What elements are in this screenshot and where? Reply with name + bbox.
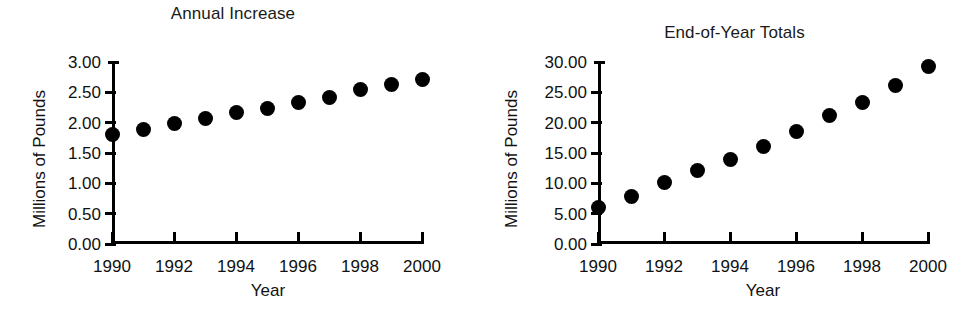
panel-annual-increase: Annual Increase Millions of Pounds Year … bbox=[0, 0, 470, 316]
y-tick-label-right: 5.00 bbox=[554, 205, 587, 222]
x-tick-label-left: 2000 bbox=[403, 258, 441, 275]
y-tick-right bbox=[591, 121, 602, 124]
figure-two-panel-scatter: Annual Increase Millions of Pounds Year … bbox=[0, 0, 979, 316]
y-tick-left bbox=[105, 212, 116, 215]
y-tick-label-left: 0.50 bbox=[68, 205, 101, 222]
data-point bbox=[384, 77, 399, 92]
x-tick-right bbox=[795, 232, 798, 244]
y-tick-left bbox=[108, 61, 119, 64]
plot-area-left: 0.000.501.001.502.002.503.00199019921994… bbox=[112, 62, 422, 244]
data-point bbox=[136, 122, 151, 137]
y-axis-label-left: Millions of Pounds bbox=[30, 90, 50, 228]
x-tick-label-right: 2000 bbox=[909, 258, 947, 275]
y-tick-label-left: 0.00 bbox=[68, 236, 101, 253]
data-point bbox=[855, 95, 870, 110]
data-point bbox=[723, 152, 738, 167]
data-point bbox=[657, 175, 672, 190]
data-point bbox=[198, 111, 213, 126]
y-axis-label-right: Millions of Pounds bbox=[502, 90, 522, 228]
x-tick-right bbox=[663, 232, 666, 244]
y-tick-label-left: 1.00 bbox=[68, 175, 101, 192]
x-axis-label-right: Year bbox=[746, 281, 780, 301]
data-point bbox=[690, 163, 705, 178]
x-tick-left bbox=[359, 232, 362, 244]
y-tick-label-left: 2.50 bbox=[68, 84, 101, 101]
x-axis-label-left: Year bbox=[251, 281, 285, 301]
x-tick-right bbox=[597, 232, 600, 244]
x-tick-label-right: 1998 bbox=[843, 258, 881, 275]
y-tick-right bbox=[591, 91, 602, 94]
data-point bbox=[415, 72, 430, 87]
x-tick-left bbox=[235, 232, 238, 244]
data-point bbox=[353, 82, 368, 97]
x-tick-right bbox=[861, 232, 864, 244]
data-point bbox=[624, 189, 639, 204]
data-point bbox=[822, 108, 837, 123]
y-tick-left bbox=[105, 91, 116, 94]
x-tick-right bbox=[729, 232, 732, 244]
data-point bbox=[167, 116, 182, 131]
x-tick-label-right: 1992 bbox=[645, 258, 683, 275]
data-point bbox=[591, 200, 606, 215]
y-tick-left bbox=[105, 182, 116, 185]
data-point bbox=[229, 105, 244, 120]
x-axis-line-right bbox=[598, 241, 928, 244]
y-tick-label-right: 15.00 bbox=[544, 145, 587, 162]
x-tick-left bbox=[421, 232, 424, 244]
data-point bbox=[756, 139, 771, 154]
x-tick-label-left: 1992 bbox=[155, 258, 193, 275]
x-tick-label-right: 1994 bbox=[711, 258, 749, 275]
y-tick-label-right: 10.00 bbox=[544, 175, 587, 192]
x-tick-label-right: 1996 bbox=[777, 258, 815, 275]
y-tick-label-right: 25.00 bbox=[544, 84, 587, 101]
x-tick-label-right: 1990 bbox=[579, 258, 617, 275]
y-tick-left bbox=[105, 152, 116, 155]
data-point bbox=[291, 95, 306, 110]
x-axis-line-left bbox=[112, 241, 422, 244]
x-tick-left bbox=[297, 232, 300, 244]
y-tick-label-left: 3.00 bbox=[68, 54, 101, 71]
y-tick-label-right: 0.00 bbox=[554, 236, 587, 253]
chart-title-end-of-year-totals: End-of-Year Totals bbox=[480, 23, 979, 43]
y-tick-label-right: 30.00 bbox=[544, 54, 587, 71]
y-tick-label-left: 1.50 bbox=[68, 145, 101, 162]
x-tick-right bbox=[927, 232, 930, 244]
chart-title-annual-increase: Annual Increase bbox=[0, 4, 468, 24]
y-tick-right bbox=[591, 152, 602, 155]
plot-area-right: 0.005.0010.0015.0020.0025.0030.001990199… bbox=[598, 62, 928, 244]
y-tick-label-left: 2.00 bbox=[68, 114, 101, 131]
data-point bbox=[888, 78, 903, 93]
y-tick-right bbox=[591, 182, 602, 185]
data-point bbox=[322, 90, 337, 105]
data-point bbox=[260, 101, 275, 116]
y-tick-left bbox=[105, 121, 116, 124]
y-tick-label-right: 20.00 bbox=[544, 114, 587, 131]
data-point bbox=[105, 127, 120, 142]
y-tick-right bbox=[594, 61, 605, 64]
x-tick-label-left: 1994 bbox=[217, 258, 255, 275]
panel-end-of-year-totals: End-of-Year Totals Millions of Pounds Ye… bbox=[470, 0, 979, 316]
data-point bbox=[789, 124, 804, 139]
x-tick-left bbox=[111, 232, 114, 244]
x-tick-left bbox=[173, 232, 176, 244]
data-point bbox=[921, 59, 936, 74]
x-tick-label-left: 1998 bbox=[341, 258, 379, 275]
x-tick-label-left: 1990 bbox=[93, 258, 131, 275]
x-tick-label-left: 1996 bbox=[279, 258, 317, 275]
